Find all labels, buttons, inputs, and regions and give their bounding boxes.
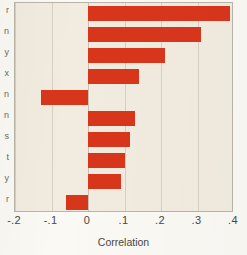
x-tick-label: -.1 (36, 214, 66, 226)
bar-row (15, 3, 232, 24)
bar (88, 174, 121, 189)
cropped-category-label: x (0, 68, 9, 78)
bar-row (15, 192, 232, 212)
cropped-category-label: y (0, 173, 9, 183)
bar (88, 153, 125, 168)
x-tick-label: 0 (72, 214, 102, 226)
bar (88, 111, 135, 126)
category-label-gutter: rnyxnnstyr (0, 0, 12, 212)
bar-row (15, 24, 232, 45)
cropped-category-label: t (0, 152, 9, 162)
bar-row (15, 87, 232, 108)
cropped-category-label: n (0, 110, 9, 120)
x-tick-label: .4 (218, 214, 247, 226)
bar (66, 195, 88, 210)
cropped-category-label: r (0, 5, 9, 15)
x-tick-label: .2 (145, 214, 175, 226)
bar (88, 48, 165, 63)
figure-container: rnyxnnstyr -.2-.10.1.2.3.4 Correlation (0, 0, 247, 255)
bar (88, 27, 201, 42)
cropped-category-label: n (0, 26, 9, 36)
bar-row (15, 129, 232, 150)
bar (88, 69, 139, 84)
cropped-category-label: r (0, 194, 9, 204)
x-tick-label: .1 (109, 214, 139, 226)
bar (88, 132, 130, 147)
bar-row (15, 66, 232, 87)
cropped-category-label: y (0, 47, 9, 57)
x-axis: -.2-.10.1.2.3.4 Correlation (0, 212, 247, 255)
cropped-category-label: n (0, 89, 9, 99)
x-tick-label: -.2 (0, 214, 29, 226)
cropped-category-label: s (0, 131, 9, 141)
bar-row (15, 150, 232, 171)
bar-row (15, 171, 232, 192)
bar (88, 6, 230, 21)
bar-row (15, 45, 232, 66)
bar-row (15, 108, 232, 129)
plot-area (14, 2, 233, 212)
bar (41, 90, 88, 105)
x-axis-title: Correlation (0, 236, 247, 248)
x-tick-label: .3 (182, 214, 212, 226)
